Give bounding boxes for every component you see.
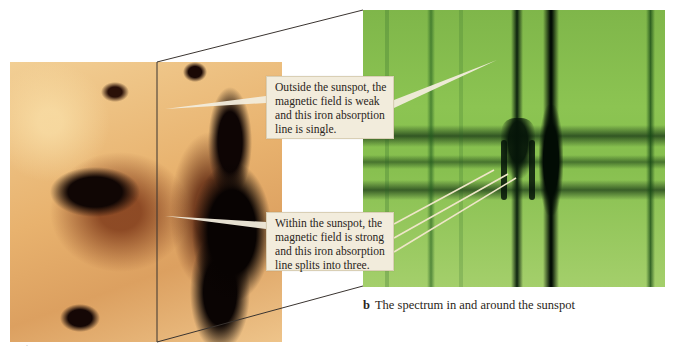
callout-line: magnetic field is weak xyxy=(275,95,387,109)
absorption-line xyxy=(427,10,435,287)
sunspot-image xyxy=(10,62,282,342)
panel-label-b: b xyxy=(363,298,370,312)
absorption-line xyxy=(459,10,463,287)
callout-line: Outside the sunspot, the xyxy=(275,81,387,95)
absorption-core xyxy=(539,105,563,215)
callout-within-sunspot: Within the sunspot, the magnetic field i… xyxy=(266,212,394,271)
spectrum-image xyxy=(363,10,665,287)
callout-line: Within the sunspot, the xyxy=(275,217,387,231)
callout-line: line is single. xyxy=(275,123,387,137)
callout-line: and this iron absorption xyxy=(275,245,387,259)
absorption-line xyxy=(646,10,655,287)
callout-line: magnetic field is strong xyxy=(275,231,387,245)
callout-line: line splits into three. xyxy=(275,259,387,273)
callout-line: and this iron absorption xyxy=(275,109,387,123)
zeeman-component xyxy=(501,140,507,200)
figure: Outside the sunspot, the magnetic field … xyxy=(0,0,674,349)
zeeman-component xyxy=(529,140,535,200)
caption-text: The spectrum in and around the sunspot xyxy=(375,298,575,312)
caption-panel-b: bThe spectrum in and around the sunspot xyxy=(363,298,575,313)
callout-outside-sunspot: Outside the sunspot, the magnetic field … xyxy=(266,76,394,139)
panel-label-a: · xyxy=(26,343,28,349)
